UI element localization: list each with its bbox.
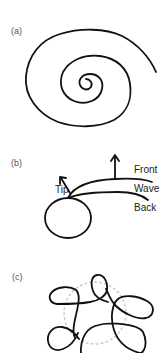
panel-b: (b) Tip Front Wave Back: [11, 155, 160, 238]
tip-label: Tip: [55, 184, 69, 195]
panel-a-label: (a): [11, 26, 22, 36]
wave-label: Wave: [134, 183, 160, 194]
figure-canvas: (a) (b) Tip Front Wave Back (c): [0, 0, 163, 353]
panel-a: (a): [11, 26, 156, 126]
core-circle: [45, 198, 91, 238]
back-label: Back: [134, 202, 157, 213]
spiral-curve: [26, 30, 156, 127]
panel-c-label: (c): [12, 272, 23, 282]
panel-c: (c): [12, 272, 153, 353]
front-label: Front: [134, 164, 158, 175]
panel-b-label: (b): [11, 158, 22, 168]
